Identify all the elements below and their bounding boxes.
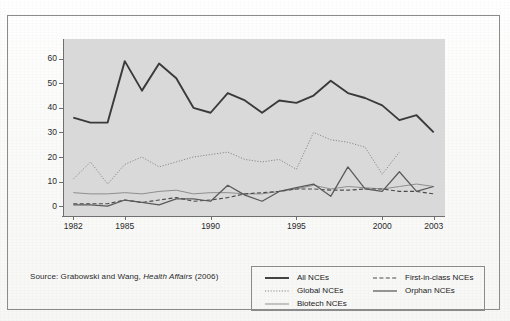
y-tick-label: 30 bbox=[27, 128, 57, 137]
series-line-all-nces bbox=[73, 61, 433, 132]
figure-frame: Source: Grabowski and Wang, Health Affai… bbox=[7, 15, 500, 310]
y-tick-mark bbox=[59, 132, 63, 133]
x-axis-line bbox=[62, 216, 445, 217]
legend-label: Orphan NCEs bbox=[405, 287, 455, 295]
x-tick-label: 1995 bbox=[276, 222, 316, 231]
legend-entry: Biotech NCEs bbox=[264, 298, 347, 310]
legend-line-swatch-icon bbox=[264, 273, 290, 283]
x-tick-mark bbox=[296, 216, 297, 220]
chart-plot-region bbox=[63, 39, 444, 216]
series-line-orphan-nces bbox=[73, 167, 433, 206]
legend-line-swatch-icon bbox=[372, 273, 398, 283]
y-tick-label: 10 bbox=[27, 177, 57, 186]
x-tick-label: 2003 bbox=[414, 222, 454, 231]
legend-label: Global NCEs bbox=[297, 287, 343, 295]
legend-column-right: First-in-class NCEs Orphan NCEs bbox=[372, 272, 473, 298]
legend-line-swatch-icon bbox=[264, 286, 290, 296]
x-tick-mark bbox=[211, 216, 212, 220]
y-tick-label: 0 bbox=[27, 202, 57, 211]
chart-series-canvas bbox=[63, 39, 444, 216]
y-tick-mark bbox=[59, 59, 63, 60]
y-tick-label: 50 bbox=[27, 79, 57, 88]
chart-legend: All NCEs Global NCEs Biotech NCEs First-… bbox=[251, 266, 485, 311]
source-note-suffix: (2006) bbox=[192, 272, 218, 281]
legend-label: First-in-class NCEs bbox=[405, 274, 473, 282]
legend-entry: All NCEs bbox=[264, 272, 347, 284]
y-tick-label: 40 bbox=[27, 103, 57, 112]
x-tick-mark bbox=[73, 216, 74, 220]
y-tick-label: 60 bbox=[27, 54, 57, 63]
x-tick-label: 2000 bbox=[362, 222, 402, 231]
legend-entry: Orphan NCEs bbox=[372, 285, 473, 297]
legend-column-left: All NCEs Global NCEs Biotech NCEs bbox=[264, 272, 347, 311]
legend-line-swatch-icon bbox=[372, 286, 398, 296]
y-tick-mark bbox=[59, 108, 63, 109]
source-note-prefix: Source: Grabowski and Wang, bbox=[30, 272, 143, 281]
legend-entry: First-in-class NCEs bbox=[372, 272, 473, 284]
x-tick-label: 1990 bbox=[191, 222, 231, 231]
y-tick-label: 20 bbox=[27, 153, 57, 162]
x-tick-mark bbox=[434, 216, 435, 220]
legend-label: All NCEs bbox=[297, 274, 329, 282]
y-tick-mark bbox=[59, 206, 63, 207]
legend-line-swatch-icon bbox=[264, 299, 290, 309]
x-tick-label: 1982 bbox=[53, 222, 93, 231]
x-tick-mark bbox=[382, 216, 383, 220]
y-tick-mark bbox=[59, 157, 63, 158]
series-line-global-nces bbox=[73, 132, 399, 184]
y-tick-mark bbox=[59, 182, 63, 183]
x-tick-mark bbox=[125, 216, 126, 220]
legend-entry: Global NCEs bbox=[264, 285, 347, 297]
x-tick-label: 1985 bbox=[105, 222, 145, 231]
y-tick-mark bbox=[59, 83, 63, 84]
source-note: Source: Grabowski and Wang, Health Affai… bbox=[30, 272, 218, 281]
source-note-journal: Health Affairs bbox=[143, 272, 192, 281]
legend-label: Biotech NCEs bbox=[297, 300, 347, 308]
